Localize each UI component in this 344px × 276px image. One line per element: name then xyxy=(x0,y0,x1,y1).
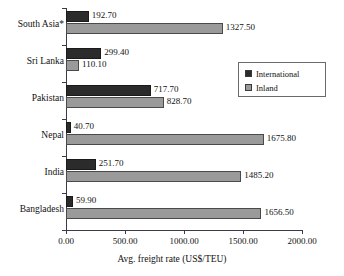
bar-value-label: 192.70 xyxy=(92,10,117,21)
bar-value-label: 1656.50 xyxy=(264,207,293,218)
x-tick-label: 1000.00 xyxy=(169,236,198,246)
bar-value-label: 251.70 xyxy=(99,158,124,169)
legend-swatch-international xyxy=(245,70,252,77)
bar-value-label: 299.40 xyxy=(104,47,129,58)
bar-intl xyxy=(66,159,96,170)
bar-inland xyxy=(66,23,223,34)
bar-value-label: 110.10 xyxy=(82,59,106,70)
x-tick-label: 500.00 xyxy=(113,236,138,246)
x-tick-label: 1500.00 xyxy=(228,236,257,246)
bar-value-label: 717.70 xyxy=(154,84,179,95)
x-tick xyxy=(125,230,126,234)
bar-value-label: 828.70 xyxy=(167,96,192,107)
x-tick-label: 0.00 xyxy=(58,236,74,246)
bar-intl xyxy=(66,11,89,22)
legend-item-international: International xyxy=(245,67,325,80)
x-tick xyxy=(184,230,185,234)
bar-inland xyxy=(66,97,164,108)
legend-item-inland: Inland xyxy=(245,81,325,94)
bar-inland xyxy=(66,208,261,219)
x-tick xyxy=(243,230,244,234)
category-label: Pakistan xyxy=(0,93,64,103)
bar-value-label: 1485.20 xyxy=(244,170,273,181)
chart-legend: International Inland xyxy=(238,62,326,97)
bar-value-label: 59.90 xyxy=(76,195,96,206)
bar-inland xyxy=(66,60,79,71)
bar-intl xyxy=(66,48,101,59)
bar-value-label: 1675.80 xyxy=(267,133,296,144)
bar-value-label: 40.70 xyxy=(74,121,94,132)
category-label: Sri Lanka xyxy=(0,56,64,66)
x-tick xyxy=(302,230,303,234)
bar-inland xyxy=(66,171,241,182)
legend-label-inland: Inland xyxy=(256,83,278,93)
category-label: South Asia* xyxy=(0,19,64,29)
legend-swatch-inland xyxy=(245,84,252,91)
bar-value-label: 1327.50 xyxy=(226,22,255,33)
x-axis-title: Avg. freight rate (US$/TEU) xyxy=(0,254,344,264)
category-label: India xyxy=(0,167,64,177)
x-tick-label: 2000.00 xyxy=(287,236,316,246)
legend-label-international: International xyxy=(256,69,299,79)
category-label: Bangladesh xyxy=(0,204,64,214)
bar-intl xyxy=(66,85,151,96)
x-tick xyxy=(66,230,67,234)
bar-inland xyxy=(66,134,264,145)
y-tick xyxy=(62,230,66,231)
bar-intl xyxy=(66,122,71,133)
category-label: Nepal xyxy=(0,130,64,140)
bar-intl xyxy=(66,196,73,207)
bar-chart: 192.701327.50299.40110.10717.70828.7040.… xyxy=(0,0,344,276)
